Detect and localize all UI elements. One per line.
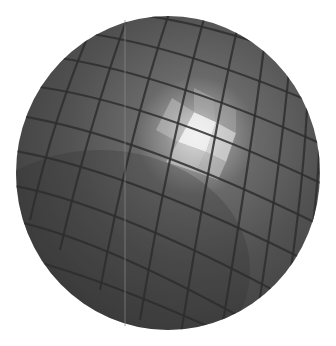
sphere-render (0, 0, 336, 346)
sphere-mesh (0, 0, 336, 346)
